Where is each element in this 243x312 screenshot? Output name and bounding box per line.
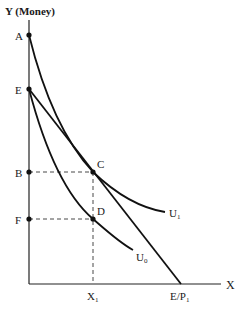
indifference-curve-diagram: Y (Money) X A E B F C D U1 U0 X1 E/P1 [0,0,243,312]
point-f [26,216,31,221]
point-c [90,169,95,174]
indifference-curve-u0 [29,89,133,250]
x-axis-label: X [226,278,235,292]
label-a: A [15,30,23,42]
budget-line [29,89,181,284]
indifference-curve-u1 [29,35,165,212]
label-c: C [97,158,104,170]
tick-e-over-p1: E/P1 [170,290,190,304]
point-b [26,169,31,174]
tick-x1: X1 [87,290,99,304]
point-a [26,32,31,37]
y-axis-label: Y (Money) [5,5,55,18]
label-d: D [97,205,105,217]
label-b: B [15,167,22,179]
label-u1: U1 [169,207,181,221]
point-e [26,86,31,91]
point-d [90,216,95,221]
label-f: F [15,214,21,226]
label-e: E [15,84,22,96]
label-u0: U0 [136,251,148,265]
